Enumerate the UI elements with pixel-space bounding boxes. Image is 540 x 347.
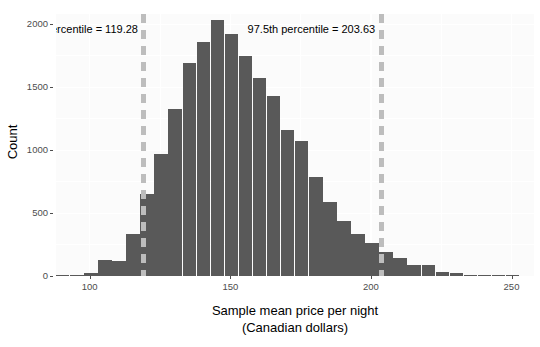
- histogram-bar: [407, 265, 420, 276]
- x-tick-mark: [371, 276, 372, 279]
- x-tick-label: 100: [60, 281, 120, 292]
- histogram-bar: [197, 42, 210, 276]
- x-tick-label: 200: [341, 281, 401, 292]
- x-tick-mark: [90, 276, 91, 279]
- histogram-bar: [337, 221, 350, 276]
- gridline-horizontal-major: [56, 87, 534, 88]
- gridline-vertical-major: [89, 14, 90, 276]
- y-tick-mark: [50, 24, 53, 25]
- histogram-bar: [253, 78, 266, 276]
- histogram-bar: [351, 234, 364, 276]
- histogram-bar: [393, 258, 406, 276]
- x-axis-title-line2: (Canadian dollars): [56, 319, 534, 336]
- plot-panel: 2.5th percentile = 119.2897.5th percenti…: [56, 14, 534, 276]
- histogram-bar: [183, 63, 196, 276]
- y-tick-mark: [50, 213, 53, 214]
- histogram-bar: [422, 265, 435, 276]
- histogram-bar: [365, 243, 378, 276]
- histogram-bar: [267, 96, 280, 276]
- y-tick-label: 0: [8, 271, 48, 281]
- y-tick-mark: [50, 87, 53, 88]
- histogram-bar: [225, 34, 238, 276]
- y-tick-label: 500: [8, 208, 48, 218]
- x-axis-title-line1: Sample mean price per night: [212, 303, 378, 318]
- percentile-label-lower-percentile: 2.5th percentile = 119.28: [56, 23, 138, 36]
- histogram-bar: [309, 177, 322, 277]
- histogram-bar: [154, 154, 167, 276]
- histogram-bar: [281, 130, 294, 276]
- gridline-vertical-major: [370, 14, 371, 276]
- histogram-bar: [211, 20, 224, 276]
- histogram-bar: [295, 141, 308, 276]
- histogram-figure: Count 0500100015002000 2.5th percentile …: [0, 0, 540, 347]
- x-axis-title: Sample mean price per night (Canadian do…: [56, 302, 534, 336]
- histogram-bar: [98, 260, 111, 276]
- histogram-bar: [112, 261, 125, 276]
- y-tick-mark: [50, 276, 53, 277]
- gridline-vertical-major: [511, 14, 512, 276]
- x-tick-mark: [512, 276, 513, 279]
- y-tick-label: 1500: [8, 82, 48, 92]
- x-tick-label: 150: [200, 281, 260, 292]
- percentile-line-lower-percentile: [141, 14, 146, 276]
- histogram-bar: [126, 234, 139, 276]
- gridline-horizontal-minor: [56, 55, 534, 56]
- x-tick-mark: [230, 276, 231, 279]
- y-axis-ticks: 0500100015002000: [0, 0, 48, 347]
- y-tick-label: 2000: [8, 19, 48, 29]
- y-tick-mark: [50, 150, 53, 151]
- histogram-bar: [239, 56, 252, 276]
- percentile-label-upper-percentile: 97.5th percentile = 203.63: [248, 23, 376, 36]
- histogram-bar: [323, 202, 336, 276]
- gridline-vertical-minor: [441, 14, 442, 276]
- histogram-bar: [168, 109, 181, 276]
- percentile-line-upper-percentile: [379, 14, 384, 276]
- y-tick-label: 1000: [8, 145, 48, 155]
- x-tick-label: 250: [482, 281, 540, 292]
- gridline-horizontal-minor: [56, 118, 534, 119]
